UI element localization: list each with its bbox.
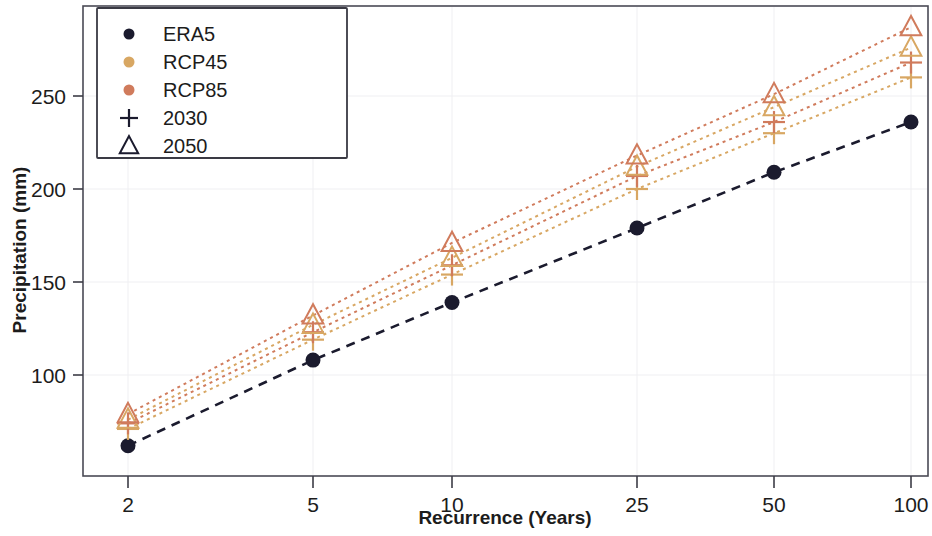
- y-axis-tick-labels: 100150200250: [31, 85, 66, 387]
- x-tick-label: 2: [122, 493, 134, 516]
- precipitation-recurrence-chart: 100150200250 25102550100 Recurrence (Yea…: [0, 0, 932, 536]
- legend-marker-circle: [124, 57, 135, 68]
- x-axis-ticks: [128, 476, 911, 488]
- data-point-circle: [904, 115, 919, 130]
- legend-label: RCP85: [163, 79, 227, 101]
- y-tick-label: 250: [31, 85, 66, 108]
- chart-canvas: 100150200250 25102550100 Recurrence (Yea…: [0, 0, 932, 536]
- legend-label: 2050: [163, 135, 208, 157]
- legend-marker-circle: [124, 29, 135, 40]
- x-tick-label: 25: [625, 493, 648, 516]
- legend-label: 2030: [163, 107, 208, 129]
- y-tick-label: 150: [31, 271, 66, 294]
- legend-label: ERA5: [163, 23, 215, 45]
- x-tick-label: 50: [762, 493, 785, 516]
- data-point-circle: [306, 353, 321, 368]
- data-point-circle: [121, 438, 136, 453]
- legend: ERA5RCP45RCP8520302050: [97, 8, 347, 158]
- x-tick-label: 5: [307, 493, 319, 516]
- x-axis-title: Recurrence (Years): [418, 507, 591, 528]
- legend-label: RCP45: [163, 51, 227, 73]
- y-axis-ticks: [73, 96, 83, 375]
- y-tick-label: 200: [31, 178, 66, 201]
- x-tick-label: 100: [893, 493, 928, 516]
- y-axis-title: Precipitation (mm): [9, 167, 30, 334]
- legend-marker-circle: [124, 85, 135, 96]
- data-point-circle: [767, 165, 782, 180]
- data-point-circle: [445, 295, 460, 310]
- data-point-circle: [630, 221, 645, 236]
- y-tick-label: 100: [31, 364, 66, 387]
